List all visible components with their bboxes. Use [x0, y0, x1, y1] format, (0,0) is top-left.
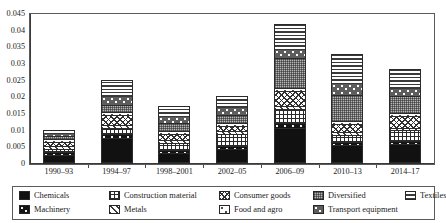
legend-swatch-icon [219, 205, 230, 214]
bar-slot[interactable] [261, 14, 319, 164]
legend-swatch-icon [313, 205, 324, 214]
x-axis-tick-label: 1998–2001 [145, 167, 203, 176]
bar-segment[interactable] [159, 154, 189, 163]
bar-series-group [30, 14, 434, 164]
bar-segment[interactable] [390, 70, 420, 89]
bar-segment[interactable] [159, 144, 189, 151]
bar-segment[interactable] [332, 55, 362, 84]
x-axis-tick-mark [319, 165, 320, 168]
bar-segment[interactable] [217, 135, 247, 147]
bar-slot[interactable] [203, 14, 261, 164]
bar-slot[interactable] [145, 14, 203, 164]
bar-segment[interactable] [217, 97, 247, 107]
bar-segment[interactable] [332, 84, 362, 97]
x-axis-tick-mark [145, 165, 146, 168]
stacked-bar[interactable] [158, 106, 190, 164]
legend-item-label: Machinery [34, 205, 70, 214]
legend-item-label: Textiles [420, 191, 446, 200]
bar-slot[interactable] [376, 14, 434, 164]
legend-item[interactable]: Consumer goods [219, 191, 291, 200]
y-axis-tick-label: 0.04 [11, 27, 25, 35]
bar-slot[interactable] [30, 14, 88, 164]
y-axis-tick-label: 0.005 [7, 143, 25, 151]
bar-segment[interactable] [390, 145, 420, 163]
stacked-bar[interactable] [43, 130, 75, 164]
y-axis-tick-label: 0.03 [11, 60, 25, 68]
legend-swatch-icon [19, 191, 30, 200]
bar-slot[interactable] [88, 14, 146, 164]
bar-segment[interactable] [275, 25, 305, 50]
bar-segment[interactable] [159, 124, 189, 132]
bar-segment[interactable] [217, 108, 247, 116]
bar-segment[interactable] [102, 129, 132, 136]
bar-segment[interactable] [275, 110, 305, 124]
y-axis-ticks: 00.0050.010.0150.020.0250.030.0350.040.0… [0, 0, 29, 166]
bar-segment[interactable] [217, 116, 247, 125]
legend-items: ChemicalsConstruction materialConsumer g… [13, 187, 434, 219]
legend-item[interactable]: Textiles [405, 191, 446, 200]
bar-segment[interactable] [159, 117, 189, 124]
x-axis-tick-label: 2002–05 [203, 167, 261, 176]
legend-item[interactable]: Machinery [19, 205, 70, 214]
legend-item[interactable]: Metals [109, 205, 147, 214]
legend-item[interactable]: Diversified [313, 191, 366, 200]
legend-item[interactable]: Food and agro [219, 205, 282, 214]
bar-segment[interactable] [102, 97, 132, 105]
stacked-bar[interactable] [274, 24, 306, 164]
bar-segment[interactable] [275, 59, 305, 89]
bar-segment[interactable] [390, 131, 420, 141]
x-axis-tick-mark [88, 165, 89, 168]
stacked-bar[interactable] [389, 69, 421, 164]
x-axis-tick-mark [261, 165, 262, 168]
bar-segment[interactable] [390, 97, 420, 114]
legend-item-label: Transport equipment [328, 205, 398, 214]
x-axis-labels: 1990–931994–971998–20012002–052006–09201… [30, 167, 434, 176]
y-axis-tick-label: 0.01 [11, 127, 25, 135]
bar-segment[interactable] [102, 116, 132, 126]
plot-area [30, 14, 434, 164]
bar-segment[interactable] [275, 50, 305, 59]
legend-item-label: Chemicals [34, 191, 69, 200]
x-axis-tick-mark [203, 165, 204, 168]
legend-item-label: Consumer goods [234, 191, 291, 200]
legend-item[interactable]: Construction material [109, 191, 197, 200]
stacked-bar[interactable] [331, 54, 363, 164]
bar-segment[interactable] [102, 139, 132, 163]
legend-item-label: Metals [124, 205, 147, 214]
legend-swatch-icon [219, 191, 230, 200]
bar-segment[interactable] [102, 81, 132, 97]
bar-segment[interactable] [332, 146, 362, 163]
stacked-bar[interactable] [101, 80, 133, 164]
bar-segment[interactable] [275, 92, 305, 106]
y-axis-tick-label: 0.025 [7, 77, 25, 85]
bar-segment[interactable] [332, 96, 362, 122]
bar-segment[interactable] [44, 156, 74, 163]
x-axis-tick-label: 1994–97 [88, 167, 146, 176]
y-axis-tick-label: 0.035 [7, 43, 25, 51]
bar-segment[interactable] [332, 125, 362, 132]
bar-segment[interactable] [159, 107, 189, 116]
bar-segment[interactable] [275, 129, 305, 163]
legend-item[interactable]: Transport equipment [313, 205, 398, 214]
legend-item-label: Construction material [124, 191, 197, 200]
legend: ChemicalsConstruction materialConsumer g… [12, 186, 435, 220]
y-axis-tick-label: 0 [21, 160, 25, 168]
legend-item-label: Diversified [328, 191, 366, 200]
x-axis-tick-label: 2006–09 [261, 167, 319, 176]
bar-segment[interactable] [390, 117, 420, 129]
stacked-bar[interactable] [216, 96, 248, 164]
legend-item-label: Food and agro [234, 205, 282, 214]
bar-segment[interactable] [390, 89, 420, 97]
bar-slot[interactable] [319, 14, 377, 164]
bar-segment[interactable] [102, 106, 132, 113]
legend-swatch-icon [405, 191, 416, 200]
y-axis-tick-label: 0.015 [7, 110, 25, 118]
x-axis-tick-label: 1990–93 [30, 167, 88, 176]
bar-segment[interactable] [332, 136, 362, 143]
x-axis-tick-label: 2014–17 [376, 167, 434, 176]
bar-segment[interactable] [217, 150, 247, 163]
legend-swatch-icon [109, 205, 120, 214]
y-axis-tick-label: 0.045 [7, 10, 25, 18]
legend-item[interactable]: Chemicals [19, 191, 69, 200]
